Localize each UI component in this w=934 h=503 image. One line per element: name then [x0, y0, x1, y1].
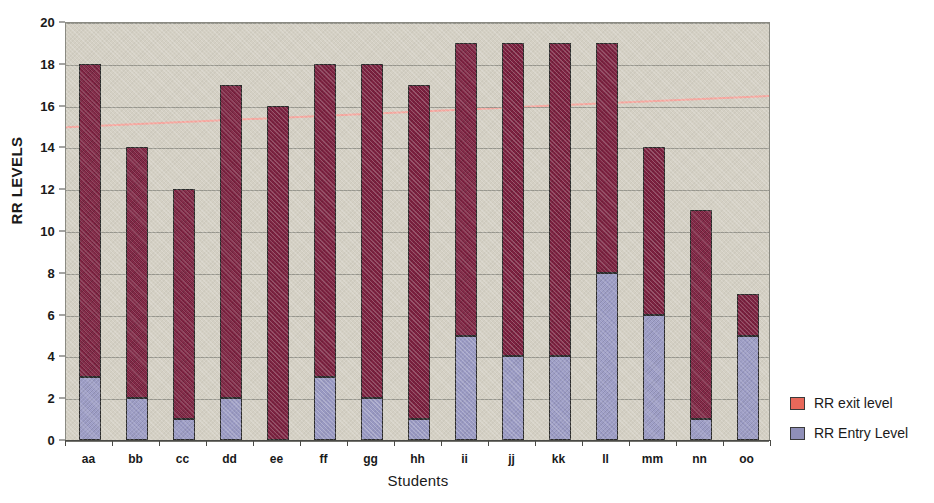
x-axis-tick-label-ff: ff [320, 452, 328, 466]
legend-label-entry: RR Entry Level [814, 425, 908, 441]
bar-segment-exit[interactable] [643, 147, 665, 314]
bar-bb[interactable] [126, 147, 148, 440]
x-axis-tick-label-kk: kk [552, 452, 565, 466]
x-axis-tick-mark [676, 440, 677, 446]
y-axis-tick-label: 8 [48, 265, 55, 280]
bar-segment-exit[interactable] [408, 85, 430, 419]
bar-segment-exit[interactable] [690, 210, 712, 419]
bar-segment-exit[interactable] [455, 43, 477, 336]
bar-segment-entry[interactable] [173, 419, 195, 440]
x-axis-line [65, 440, 771, 441]
x-axis-title: Students [65, 472, 771, 489]
chart-figure: 02468101214161820 RR LEVELS aabbccddeeff… [0, 0, 934, 503]
bar-segment-exit[interactable] [549, 43, 571, 357]
plot-area [65, 22, 770, 440]
x-axis-tick-mark [65, 440, 66, 446]
bar-hh[interactable] [408, 85, 430, 440]
y-axis-tick-label: 0 [48, 433, 55, 448]
bar-ii[interactable] [455, 43, 477, 440]
bar-segment-exit[interactable] [173, 189, 195, 419]
bar-segment-entry[interactable] [314, 377, 336, 440]
bar-ee[interactable] [267, 106, 289, 440]
x-axis-tick-label-ii: ii [461, 452, 468, 466]
x-axis-tick-label-ee: ee [270, 452, 283, 466]
x-axis-tick-mark [347, 440, 348, 446]
bar-segment-entry[interactable] [220, 398, 242, 440]
x-axis-tick-label-aa: aa [82, 452, 95, 466]
y-axis-title: RR LEVELS [8, 91, 25, 271]
bar-segment-entry[interactable] [596, 273, 618, 440]
x-axis-tick-mark [112, 440, 113, 446]
y-axis-tick-label: 6 [48, 307, 55, 322]
bar-segment-exit[interactable] [79, 64, 101, 378]
bar-dd[interactable] [220, 85, 242, 440]
x-axis-tick-mark [723, 440, 724, 446]
x-axis-tick-label-oo: oo [739, 452, 754, 466]
bar-segment-exit[interactable] [596, 43, 618, 273]
legend-item-entry[interactable]: RR Entry Level [790, 425, 934, 441]
x-axis-tick-label-ll: ll [602, 452, 609, 466]
bar-segment-entry[interactable] [690, 419, 712, 440]
bar-aa[interactable] [79, 64, 101, 440]
bar-jj[interactable] [502, 43, 524, 440]
x-axis-tick-label-mm: mm [642, 452, 663, 466]
bar-segment-exit[interactable] [220, 85, 242, 399]
x-axis-tick-label-hh: hh [410, 452, 425, 466]
bar-segment-entry[interactable] [79, 377, 101, 440]
bar-segment-entry[interactable] [126, 398, 148, 440]
legend-item-exit[interactable]: RR exit level [790, 395, 934, 411]
x-axis-tick-label-jj: jj [508, 452, 515, 466]
y-axis-tick-label: 18 [40, 56, 55, 71]
x-axis-tick-mark [770, 440, 771, 446]
legend-label-exit: RR exit level [814, 395, 893, 411]
bar-segment-exit[interactable] [126, 147, 148, 398]
bar-segment-entry[interactable] [361, 398, 383, 440]
bar-segment-entry[interactable] [408, 419, 430, 440]
bar-segment-exit[interactable] [361, 64, 383, 398]
legend-swatch-entry-icon [790, 427, 805, 440]
x-axis-tick-mark [394, 440, 395, 446]
x-axis-tick-mark [535, 440, 536, 446]
x-axis-tick-mark [300, 440, 301, 446]
bar-segment-exit[interactable] [737, 294, 759, 336]
legend-swatch-exit-icon [790, 397, 805, 410]
bar-mm[interactable] [643, 147, 665, 440]
gridline [66, 65, 769, 66]
x-axis-tick-mark [159, 440, 160, 446]
x-axis-tick-label-bb: bb [128, 452, 143, 466]
y-axis-tick-label: 4 [48, 349, 55, 364]
chart-legend: RR exit level RR Entry Level [790, 395, 934, 455]
bar-nn[interactable] [690, 210, 712, 440]
bar-oo[interactable] [737, 294, 759, 440]
bar-gg[interactable] [361, 64, 383, 440]
y-axis-tick-label: 20 [40, 15, 55, 30]
y-axis-tick-label: 14 [40, 140, 55, 155]
x-axis-tick-mark [253, 440, 254, 446]
bar-segment-entry[interactable] [737, 336, 759, 441]
bar-segment-exit[interactable] [314, 64, 336, 378]
bar-segment-entry[interactable] [455, 336, 477, 441]
bar-ll[interactable] [596, 43, 618, 440]
y-axis-tick-label: 2 [48, 391, 55, 406]
bar-segment-entry[interactable] [549, 356, 571, 440]
bar-cc[interactable] [173, 189, 195, 440]
bar-kk[interactable] [549, 43, 571, 440]
bar-segment-entry[interactable] [502, 356, 524, 440]
x-axis-tick-mark [206, 440, 207, 446]
bar-segment-exit[interactable] [502, 43, 524, 357]
y-axis-tick-label: 16 [40, 98, 55, 113]
bar-segment-entry[interactable] [643, 315, 665, 440]
x-axis-tick-mark [629, 440, 630, 446]
x-axis-tick-label-cc: cc [176, 452, 189, 466]
x-axis-tick-mark [582, 440, 583, 446]
bar-segment-exit[interactable] [267, 106, 289, 440]
x-axis-tick-label-gg: gg [363, 452, 378, 466]
x-axis: aabbccddeeffgghhiijjkkllmmnnoo [65, 440, 771, 470]
x-axis-tick-label-nn: nn [692, 452, 707, 466]
gridline [66, 23, 769, 24]
x-axis-tick-mark [441, 440, 442, 446]
bar-ff[interactable] [314, 64, 336, 440]
x-axis-tick-label-dd: dd [222, 452, 237, 466]
x-axis-tick-mark [488, 440, 489, 446]
y-axis-tick-label: 12 [40, 182, 55, 197]
